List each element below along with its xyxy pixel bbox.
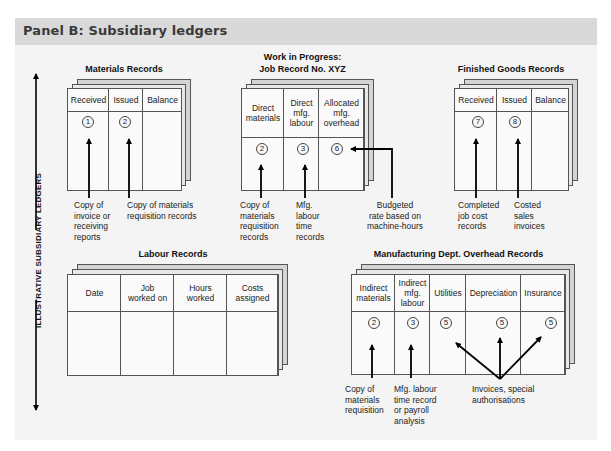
overhead-title: Manufacturing Dept. Overhead Records — [351, 249, 566, 260]
marker-5: 5 — [496, 317, 508, 329]
materials-header-issued: Issued — [109, 89, 143, 111]
materials-title: Materials Records — [67, 64, 181, 75]
fg-header-issued: Issued — [497, 89, 532, 111]
finished-goods-title: Finished Goods Records — [454, 64, 568, 75]
marker-3: 3 — [297, 143, 309, 155]
overhead-note-labour: Mfg. labour time record or payroll analy… — [394, 384, 437, 426]
fg-note-issued: Costed sales invoices — [514, 200, 545, 232]
wip-title-line2: Job Record No. XYZ — [241, 64, 364, 75]
marker-8: 8 — [509, 116, 521, 128]
wip-note-materials: Copy of materials requisition records — [240, 200, 279, 242]
marker-2: 2 — [119, 116, 131, 128]
labour-header-costs: Costs assigned — [227, 275, 278, 311]
marker-2: 2 — [368, 317, 380, 329]
marker-1: 1 — [82, 116, 94, 128]
finished-goods-card: Received Issued Balance 7 8 — [454, 88, 569, 191]
materials-note-issued: Copy of materials requisition records — [127, 200, 196, 221]
marker-6: 6 — [331, 143, 343, 155]
wip-note-labour: Mfg. labour time records — [296, 200, 324, 242]
overhead-header-insurance: Insurance — [521, 275, 565, 311]
fg-header-received: Received — [455, 89, 497, 111]
panel-title: Panel B: Subsidiary ledgers — [23, 23, 227, 38]
overhead-note-materials: Copy of materials requisition — [345, 384, 384, 416]
wip-header-allocated-overhead: Allocated mfg. overhead — [319, 89, 364, 137]
materials-note-received: Copy of invoice or receiving reports — [74, 200, 110, 242]
marker-7: 7 — [472, 116, 484, 128]
axis-label: ILLUSTRATIVE SUBSIDIARY LEDGERS — [34, 171, 43, 331]
materials-ledger-card: Received Issued Balance 1 2 — [67, 88, 182, 191]
labour-header-date: Date — [68, 275, 121, 311]
marker-3: 3 — [407, 317, 419, 329]
marker-2: 2 — [256, 143, 268, 155]
labour-title: Labour Records — [67, 249, 279, 260]
overhead-header-indirect-materials: Indirect materials — [352, 275, 395, 311]
wip-header-direct-labour: Direct mfg. labour — [284, 89, 319, 137]
overhead-header-indirect-labour: Indirect mfg. labour — [395, 275, 430, 311]
fg-note-received: Completed job cost records — [458, 200, 499, 232]
materials-header-received: Received — [68, 89, 109, 111]
overhead-note-invoices: Invoices, special authorisations — [472, 384, 534, 405]
marker-5: 5 — [545, 317, 557, 329]
wip-header-direct-materials: Direct materials — [242, 89, 284, 137]
wip-title-line1: Work in Progress: — [241, 52, 364, 63]
labour-header-hours: Hours worked — [174, 275, 227, 311]
fg-header-balance: Balance — [532, 89, 569, 111]
panel-header: Panel B: Subsidiary ledgers — [15, 18, 597, 45]
marker-5: 5 — [440, 317, 452, 329]
overhead-header-depreciation: Depreciation — [466, 275, 521, 311]
overhead-header-utilities: Utilities — [430, 275, 466, 311]
materials-header-balance: Balance — [143, 89, 182, 111]
overhead-records-card: Indirect materials Indirect mfg. labour … — [351, 274, 566, 375]
labour-header-job: Job worked on — [121, 275, 174, 311]
labour-records-card: Date Job worked on Hours worked Costs as… — [67, 274, 279, 376]
wip-job-record-card: Direct materials Direct mfg. labour Allo… — [241, 88, 365, 191]
wip-note-overhead: Budgeted rate based on machine-hours — [355, 200, 435, 232]
